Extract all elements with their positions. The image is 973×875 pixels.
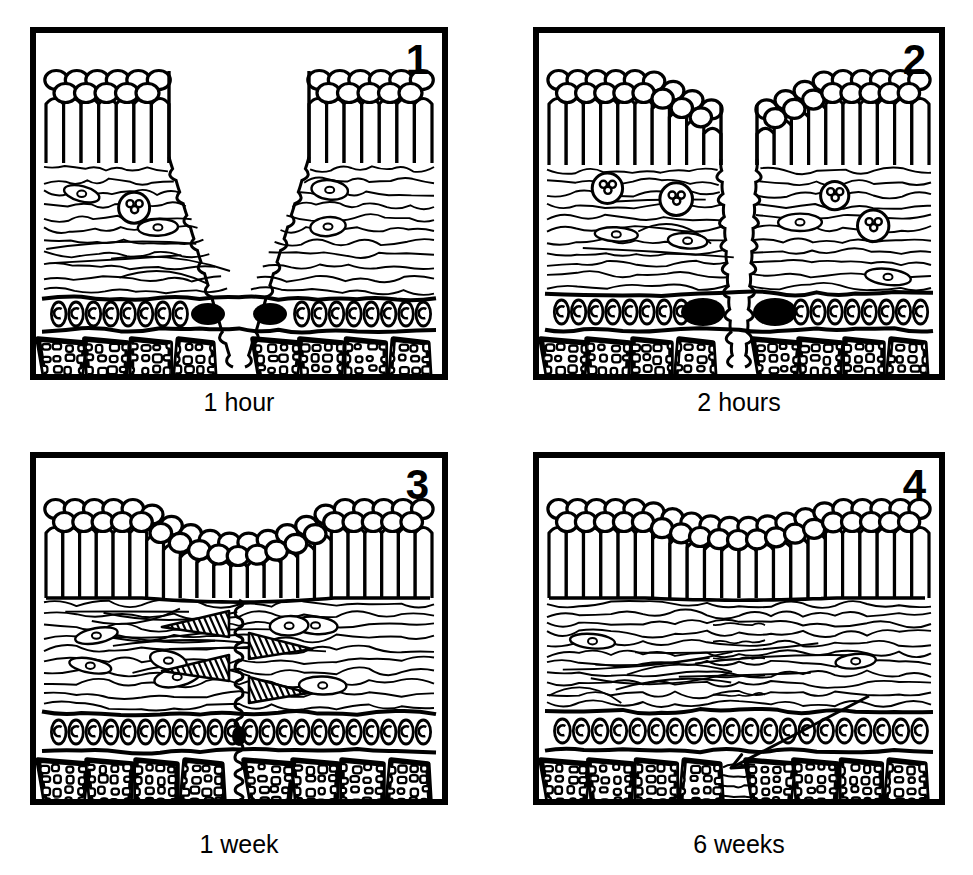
panel-4-connective-tissue-layer <box>547 601 931 707</box>
panel-4-vessel-band-layer <box>545 709 933 752</box>
panel-4: 46 weeks <box>0 0 973 875</box>
wound-healing-figure: 11 hour22 hours31 week46 weeks <box>0 0 973 875</box>
panel-4-epithelium-layer <box>548 500 930 601</box>
panel-4-frame: 4 <box>533 452 945 805</box>
panel-4-illustration <box>539 458 939 799</box>
panel-4-number: 4 <box>903 464 925 506</box>
panel-4-caption: 6 weeks <box>533 830 945 859</box>
